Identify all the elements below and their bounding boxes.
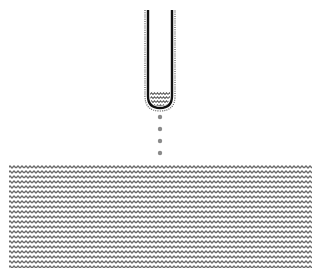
diagram-canvas — [0, 0, 321, 279]
falling-drops — [158, 115, 162, 155]
drop — [158, 139, 162, 143]
drop — [158, 115, 162, 119]
liquid-pool — [9, 165, 312, 268]
drop — [158, 127, 162, 131]
tube-liquid — [148, 91, 172, 106]
drop — [158, 151, 162, 155]
test-tube — [145, 10, 175, 111]
